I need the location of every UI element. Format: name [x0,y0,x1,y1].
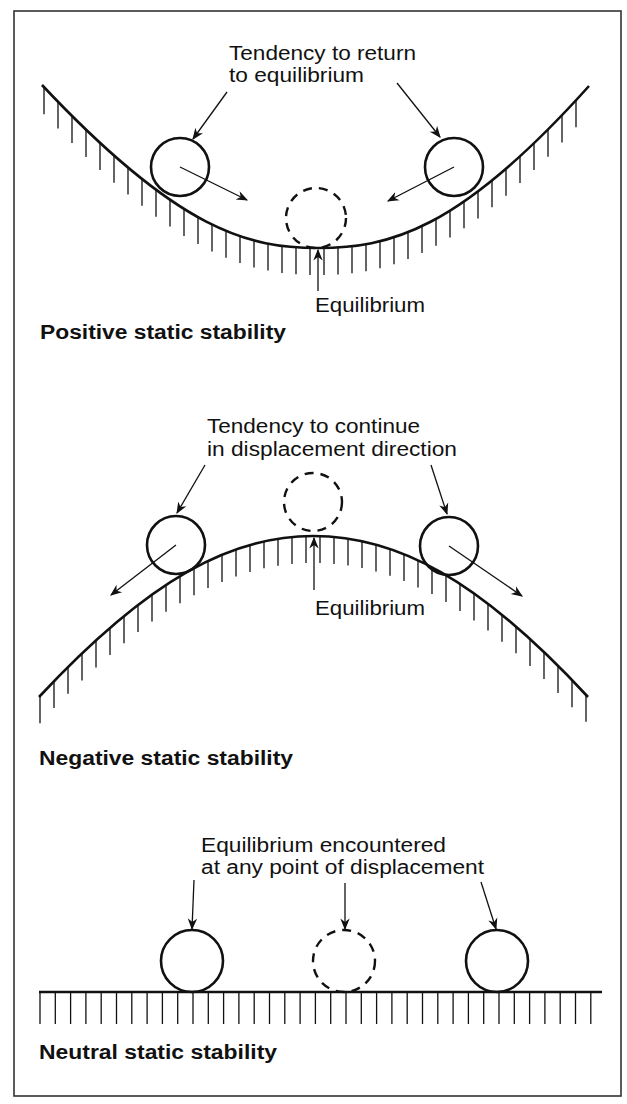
hill-hatching [40,536,586,723]
equilibrium-ball-dashed [284,473,342,531]
equilibrium-label: Equilibrium [315,597,425,619]
equilibrium-ball-dashed [286,188,346,248]
ball-middle-dashed [313,930,375,992]
note-line-2: at any point of displacement [201,856,484,878]
ball-right [466,930,528,992]
valley-surface [42,85,589,248]
figure-frame [14,11,621,1096]
note-line-1: Tendency to continue [207,415,420,437]
note-pointer-right [481,882,496,929]
flat-hatching [40,992,591,1024]
panel-positive: Tendency to return to equilibrium Equili… [40,42,589,343]
note-line-1: Equilibrium encountered [201,834,446,856]
panel-title: Positive static stability [40,321,287,343]
static-stability-diagram: Tendency to return to equilibrium Equili… [0,0,627,1104]
panel-neutral: Equilibrium encountered at any point of … [39,834,602,1063]
note-line-1: Tendency to return [229,42,416,64]
panel-negative: Tendency to continue in displacement dir… [39,415,588,769]
panel-title: Negative static stability [39,747,294,769]
ball-left [161,930,223,992]
note-line-2: to equilibrium [229,64,364,86]
note-pointer-right [397,83,440,137]
note-pointer-left [193,92,227,139]
note-line-2: in displacement direction [207,438,457,460]
restoring-arrow-right [388,167,454,201]
note-pointer-right [431,465,447,514]
equilibrium-label: Equilibrium [315,294,425,316]
panel-title: Neutral static stability [39,1041,278,1063]
note-pointer-left [192,880,194,929]
note-pointer-left [177,465,205,513]
